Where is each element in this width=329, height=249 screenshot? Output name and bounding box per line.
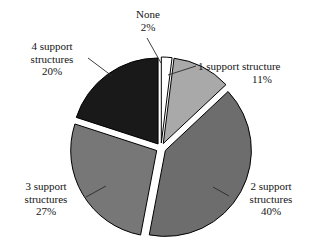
slice-label-three-name-line1: 3 support xyxy=(4,180,88,193)
slice-label-four-support-structures: 4 support structures 20% xyxy=(6,40,98,78)
slice-label-three-value: 27% xyxy=(4,205,88,218)
slice-label-one-support-structure: 1 support structure 11% xyxy=(198,60,326,85)
pie-chart-figure: None 2% 1 support structure 11% 2 suppor… xyxy=(0,0,329,249)
slice-label-none-value: 2% xyxy=(108,21,188,34)
slice-label-none-name: None xyxy=(108,8,188,21)
slice-label-three-name-line2: structures xyxy=(4,193,88,206)
slice-label-three-support-structures: 3 support structures 27% xyxy=(4,180,88,218)
slice-label-two-support-structures: 2 support structures 40% xyxy=(228,180,314,218)
slice-label-two-name-line2: structures xyxy=(228,193,314,206)
slice-label-two-value: 40% xyxy=(228,205,314,218)
slice-label-none: None 2% xyxy=(108,8,188,33)
slice-label-one-name: 1 support structure xyxy=(198,60,326,73)
slice-label-four-value: 20% xyxy=(6,65,98,78)
slice-label-two-name-line1: 2 support xyxy=(228,180,314,193)
slice-label-four-name-line1: 4 support xyxy=(6,40,98,53)
slice-label-four-name-line2: structures xyxy=(6,53,98,66)
slice-label-one-value: 11% xyxy=(198,73,326,86)
